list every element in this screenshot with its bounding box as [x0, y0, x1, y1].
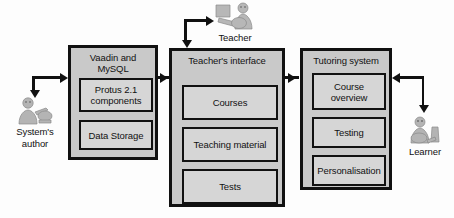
arrowhead-to-tutoring-system: [288, 73, 296, 83]
arrowhead-to-systems-author: [30, 90, 40, 98]
person-at-computer-icon: [405, 116, 445, 146]
component-label-line1: Testing: [332, 127, 365, 138]
module-title-line2: MySQL: [71, 63, 155, 74]
actor-label-line1: Teacher: [206, 33, 264, 44]
component-label-line1: Protus 2.1: [89, 84, 144, 95]
component-tests[interactable]: Tests: [182, 169, 278, 204]
module-tutoring-system[interactable]: Tutoring system Course overview Testing …: [300, 48, 392, 190]
arrowhead-to-tutoring-system-right: [392, 73, 400, 83]
component-course-overview[interactable]: Course overview: [312, 73, 386, 110]
actor-label-line2: author: [6, 139, 64, 150]
module-vaadin-mysql[interactable]: Vaadin and MySQL Protus 2.1 components D…: [68, 45, 158, 160]
arrowhead-to-vaadin-box: [60, 73, 68, 83]
diagram-canvas: System's author Vaadin and MySQL Protus …: [0, 0, 454, 218]
arrowhead-to-teachers-interface-top: [182, 40, 192, 48]
arrowhead-to-learner: [419, 105, 429, 113]
actor-systems-author: System's author: [6, 96, 64, 149]
module-title-line1: Teacher's interface: [172, 55, 282, 66]
arrowhead-to-teacher: [206, 16, 214, 26]
component-label-line1: Teaching material: [192, 139, 269, 150]
component-testing[interactable]: Testing: [312, 117, 386, 148]
component-label-line1: Tests: [217, 181, 243, 192]
actor-label-line1: System's: [6, 127, 64, 138]
connector-teacher-vertical: [184, 19, 187, 41]
connector-learner-horizontal: [400, 76, 424, 79]
module-teachers-interface[interactable]: Teacher's interface Courses Teaching mat…: [169, 48, 285, 207]
module-title-line1: Tutoring system: [303, 55, 389, 66]
component-courses[interactable]: Courses: [182, 85, 278, 120]
component-label: Course overview: [329, 81, 370, 103]
component-label-line2: overview: [329, 92, 370, 103]
connector-author-horizontal: [32, 76, 62, 79]
component-personalisation[interactable]: Personalisation: [312, 155, 386, 186]
component-label-line1: Personalisation: [315, 165, 382, 176]
arrowhead-to-teachers-interface: [160, 73, 168, 83]
module-title-line1: Vaadin and: [71, 52, 155, 63]
connector-author-vertical: [32, 76, 35, 91]
component-label: Protus 2.1 components: [89, 84, 144, 106]
component-protus-components[interactable]: Protus 2.1 components: [79, 78, 153, 112]
component-label-line1: Data Storage: [87, 130, 146, 141]
actor-label-line1: Learner: [396, 147, 454, 158]
component-teaching-material[interactable]: Teaching material: [182, 127, 278, 162]
component-label-line2: components: [89, 95, 144, 106]
component-data-storage[interactable]: Data Storage: [79, 120, 153, 150]
component-label-line1: Courses: [211, 97, 250, 108]
connector-teacher-horizontal: [184, 19, 208, 22]
person-at-computer-icon: [15, 96, 55, 126]
connector-learner-vertical: [422, 76, 425, 106]
actor-learner: Learner: [396, 116, 454, 158]
component-label-line1: Course: [329, 81, 370, 92]
actor-teacher: Teacher: [206, 2, 264, 44]
person-at-computer-icon: [213, 2, 257, 32]
